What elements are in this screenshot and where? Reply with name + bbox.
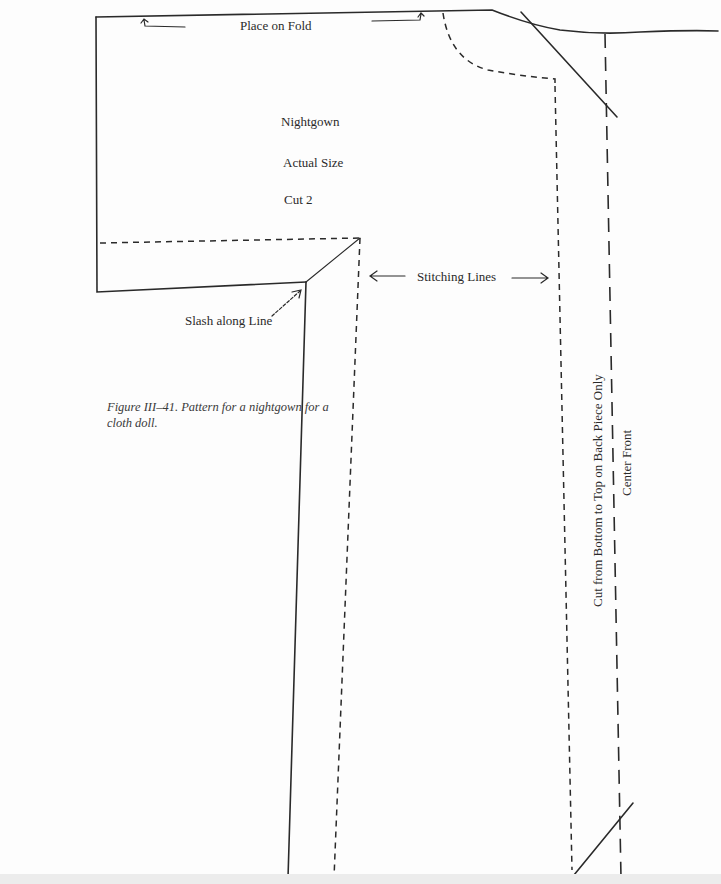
stitch-line-center-back [555, 86, 572, 870]
stitch-line-side [334, 238, 360, 878]
page-edge [0, 874, 721, 884]
stitching-lines-label: Stitching Lines [417, 269, 496, 285]
center-front-label: Center Front [619, 430, 635, 496]
hem-diagonal-line [574, 803, 633, 875]
slash-line [306, 238, 360, 282]
stitch-line-sleeve [100, 238, 360, 243]
fold-arrow-right-icon [372, 13, 424, 21]
pattern-page: Place on Fold Nightgown Actual Size Cut … [0, 0, 721, 884]
pattern-title: Nightgown [281, 114, 340, 130]
place-on-fold-label: Place on Fold [240, 18, 312, 34]
neck-diagonal-line [521, 12, 617, 117]
cut-line-side-seam [288, 282, 306, 878]
cut-back-piece-label: Cut from Bottom to Top on Back Piece Onl… [590, 374, 606, 607]
cut-line-left-edge [96, 17, 306, 292]
cut-line-outline [96, 10, 718, 33]
stitching-arrow-right-icon [512, 273, 548, 283]
nightgown-pattern-diagram [0, 0, 721, 884]
slash-arrow-icon [272, 291, 300, 316]
cut-count-label: Cut 2 [284, 192, 313, 208]
slash-along-line-label: Slash along Line [185, 313, 272, 329]
stitching-arrow-left-icon [370, 271, 405, 281]
actual-size-label: Actual Size [283, 155, 343, 171]
fold-arrow-left-icon [141, 19, 185, 27]
figure-caption: Figure III–41. Pattern for a nightgown f… [107, 399, 337, 431]
stitch-line-neck [443, 13, 555, 86]
